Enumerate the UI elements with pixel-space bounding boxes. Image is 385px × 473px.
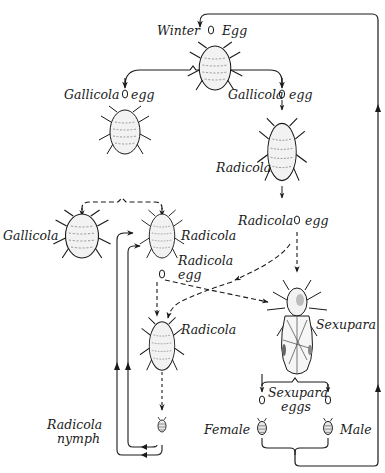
label-gallicola-adult: Gallicola (3, 229, 58, 242)
radicola-aphid-mid-icon (140, 210, 184, 258)
label-radicola-right: Radicola (216, 161, 271, 174)
female-icon (258, 418, 267, 435)
label-radicola-nymph-1: Radicola (47, 418, 102, 431)
male-icon (324, 418, 333, 435)
label-gallicola-egg-right-suffix: egg (289, 88, 312, 101)
label-radicola-nymph-2: nymph (57, 432, 100, 445)
label-sexupara-eggs-2: eggs (268, 400, 324, 413)
gallicola-egg-left-icon (122, 90, 127, 98)
label-radicola-lower: Radicola (181, 323, 236, 336)
stem-mother-aphid-icon (188, 42, 243, 90)
gallicola-aphid-top-icon (99, 106, 151, 154)
label-gallicola-egg-left: Gallicola (64, 88, 119, 101)
label-gallicola-egg-left-suffix: egg (131, 88, 154, 101)
radicola-egg-mid-icon (159, 270, 164, 278)
label-winter: Winter (157, 24, 200, 37)
radicola-aphid-lower-icon (140, 317, 184, 370)
label-sexupara: Sexupara (316, 318, 376, 331)
dashed-split-gallicola (82, 198, 162, 218)
sexupara-egg-female-icon (259, 396, 264, 404)
label-winter-egg: Egg (222, 24, 247, 37)
winter-egg-icon (208, 26, 213, 34)
label-female: Female (204, 423, 250, 436)
label-radicola-egg-right: Radicola (238, 214, 293, 227)
radicola-egg-right-icon (294, 216, 299, 224)
label-gallicola-egg-right: Gallicola (228, 88, 283, 101)
label-radicola-egg-right-suffix: egg (305, 214, 328, 227)
gallicola-aphid-adult-icon (53, 210, 110, 258)
label-radicola-egg-mid-2: egg (178, 268, 201, 281)
radicola-nymph-icon (158, 417, 166, 432)
label-radicola-egg-mid-1: Radicola (178, 254, 233, 267)
label-radicola-mid: Radicola (181, 229, 236, 242)
label-sexupara-eggs-1: Sexupara (268, 386, 324, 399)
label-male: Male (340, 423, 372, 436)
female-male-brace (262, 438, 328, 455)
